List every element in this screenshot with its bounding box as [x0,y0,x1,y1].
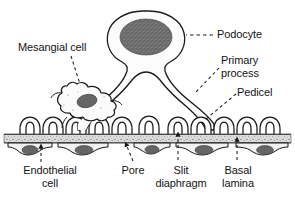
endothelial-nucleus [75,146,93,155]
glomerular-filtration-barrier-figure: Mesangial cell Podocyte Primary process … [0,0,295,197]
pedicel [168,117,188,136]
pedicel [20,117,40,136]
leader-pedicel [206,94,236,119]
endothelial-nucleus [22,146,38,155]
pedicel [112,117,132,136]
pedicel [139,116,159,136]
leader-mesangial-cell [71,56,80,84]
label-podocyte: Podocyte [217,28,262,41]
pedicel-group-right [168,117,280,136]
pedicel [191,117,211,136]
pedicel [43,117,63,136]
pedicel-group-edge [139,116,159,136]
label-mesangial-cell: Mesangial cell [18,41,86,54]
pedicel-group-left [20,117,132,136]
leader-primary-process [196,68,219,92]
label-pedicel: Pedicel [237,86,272,99]
pedicel [214,117,234,136]
podocyte-nucleus [120,19,172,55]
pedicel [260,117,280,136]
label-slit-diaphragm: Slit diaphragm [152,164,210,189]
endothelial-nucleus [195,146,213,155]
basal-lamina-band [4,134,291,143]
label-endothelial-cell: Endothelial cell [14,164,86,189]
label-pore: Pore [112,164,154,177]
endothelial-nucleus [257,146,274,155]
endothelial-nucleus [145,146,159,154]
leader-pore [126,144,133,161]
label-basal-lamina: Basal lamina [216,164,260,189]
pedicel [237,117,257,136]
endothelial-cell-layer [8,143,288,155]
label-primary-process: Primary process [221,54,259,79]
